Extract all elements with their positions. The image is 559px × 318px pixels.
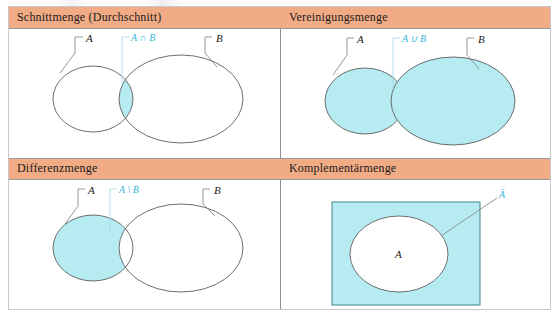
leader-line-a [333,38,354,75]
label-set-a: A [87,184,95,196]
label-set-b: B [478,33,485,45]
table-row: Schnittmenge (Durchschnitt) Vereinigungs… [9,7,550,158]
table-row: Differenzmenge Komplementärmenge [9,158,550,309]
panel-header-intersection: Schnittmenge (Durchschnitt) [17,10,161,25]
panel-union: A A ∪ B B [281,29,550,157]
label-complement: Ā [498,189,506,200]
operations-table: Schnittmenge (Durchschnitt) Vereinigungs… [8,6,551,310]
panel-header-complement: Komplementärmenge [289,161,396,176]
shaded-difference-region [9,180,280,308]
label-set-a-inner: A [394,248,402,260]
set-b-ellipse [119,55,243,143]
shaded-union-region [325,57,515,145]
label-intersection: A ∩ B [130,32,155,43]
label-set-a: A [356,33,364,45]
label-difference: A \ B [118,184,139,195]
label-union: A ∪ B [401,33,426,44]
label-set-a: A [85,32,93,44]
panel-difference: A A \ B B [9,180,280,308]
label-set-b: B [216,32,223,44]
figure-root: Schnittmenge (Durchschnitt) Vereinigungs… [0,0,559,318]
panel-header-difference: Differenzmenge [17,161,98,176]
panel-complement: A Ā [281,180,550,308]
label-set-b: B [214,184,221,196]
shaded-intersection-region [119,55,243,143]
panel-header-union: Vereinigungsmenge [289,10,388,25]
set-b-ellipse [391,57,515,145]
panel-intersection: A A ∩ B B [9,29,280,157]
